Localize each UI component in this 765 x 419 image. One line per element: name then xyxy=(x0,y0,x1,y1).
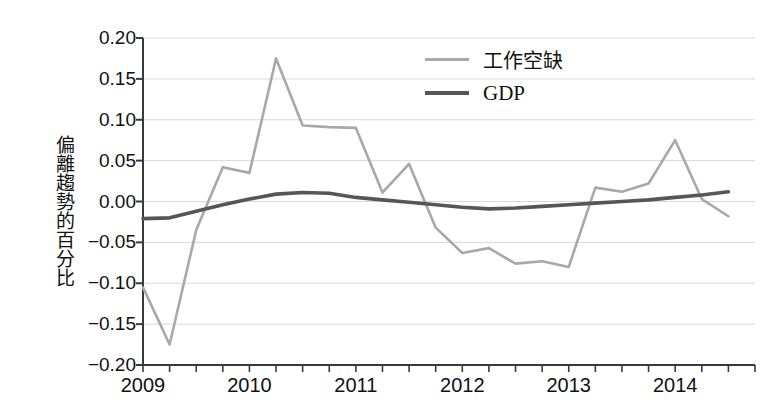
legend-line-icon-vacancies xyxy=(425,58,469,61)
x-axis-tick-label: 2012 xyxy=(427,374,497,396)
legend-item-gdp: GDP xyxy=(425,76,655,110)
x-axis-tick-label: 2013 xyxy=(534,374,604,396)
legend-label-gdp: GDP xyxy=(483,81,525,106)
series-line-gdp xyxy=(143,192,728,219)
legend-item-vacancies: 工作空缺 xyxy=(425,42,655,76)
x-axis-tick-label: 2009 xyxy=(108,374,178,396)
x-axis-tick-label: 2010 xyxy=(214,374,284,396)
x-axis-tick-label: 2011 xyxy=(321,374,391,396)
chart-container: 偏離趨勢的百分比 0.200.150.100.050.00−0.05−0.10−… xyxy=(0,0,765,419)
chart-legend: 工作空缺 GDP xyxy=(425,42,655,110)
legend-label-vacancies: 工作空缺 xyxy=(483,45,563,74)
x-axis-tick-label: 2014 xyxy=(640,374,710,396)
legend-line-icon-gdp xyxy=(425,91,469,95)
